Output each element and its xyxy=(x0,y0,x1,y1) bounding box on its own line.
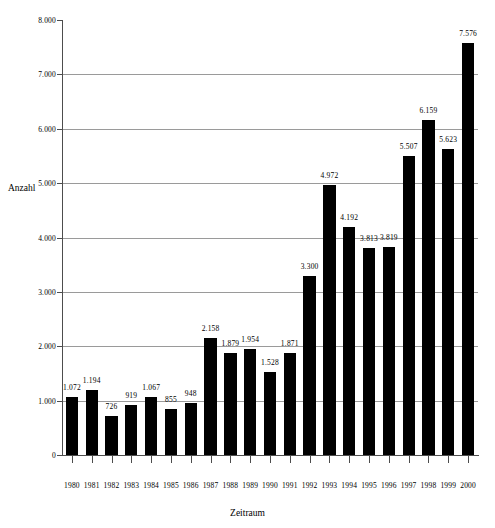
bar xyxy=(204,338,216,455)
bar xyxy=(422,120,434,455)
bar xyxy=(343,227,355,455)
bar-value-label: 1.879 xyxy=(221,339,239,348)
x-axis-tick-mark xyxy=(389,456,390,463)
bar-value-label: 726 xyxy=(106,402,118,411)
x-axis-tick-mark xyxy=(230,456,231,463)
bar-value-label: 1.871 xyxy=(281,339,299,348)
x-axis-tick-label: 1988 xyxy=(222,481,238,490)
bar xyxy=(284,353,296,455)
y-axis-tick-label: 8.000 xyxy=(38,16,56,25)
x-axis-tick-mark xyxy=(329,456,330,463)
bar-value-label: 1.067 xyxy=(142,383,160,392)
x-axis-tick-mark xyxy=(112,456,113,463)
x-axis-tick-label: 1992 xyxy=(302,481,318,490)
bar-value-label: 1.072 xyxy=(63,383,81,392)
x-axis-tick-mark xyxy=(369,456,370,463)
x-axis-tick-label: 1984 xyxy=(143,481,159,490)
bar-value-label: 855 xyxy=(165,395,177,404)
plot-area xyxy=(62,20,478,455)
bar xyxy=(264,372,276,455)
x-axis-tick-label: 1997 xyxy=(401,481,417,490)
y-axis-tick-labels: 01.0002.0003.0004.0005.0006.0007.0008.00… xyxy=(8,0,56,528)
bar-value-label: 948 xyxy=(185,389,197,398)
x-axis-tick-mark xyxy=(468,456,469,463)
y-axis-tick-mark xyxy=(57,20,62,21)
x-axis-tick-label: 1993 xyxy=(322,481,338,490)
x-axis-tick-mark xyxy=(270,456,271,463)
y-axis-tick-mark xyxy=(57,401,62,402)
gridline xyxy=(62,183,478,184)
bar xyxy=(66,397,78,455)
x-axis-tick-mark xyxy=(171,456,172,463)
bar xyxy=(403,156,415,455)
bar-value-label: 1.194 xyxy=(83,376,101,385)
bar xyxy=(224,353,236,455)
y-axis-tick-mark xyxy=(57,346,62,347)
bar-value-label: 3.819 xyxy=(380,233,398,242)
bar-value-label: 4.192 xyxy=(340,213,358,222)
gridline xyxy=(62,292,478,293)
y-axis-tick-label: 3.000 xyxy=(38,287,56,296)
x-axis-tick-label: 1982 xyxy=(104,481,120,490)
x-axis-tick-mark xyxy=(250,456,251,463)
x-axis-tick-label: 2000 xyxy=(460,481,476,490)
y-axis-tick-mark xyxy=(57,292,62,293)
x-axis-tick-label: 1991 xyxy=(282,481,298,490)
x-axis-tick-label: 1981 xyxy=(84,481,100,490)
bar xyxy=(303,276,315,455)
y-axis-tick-label: 1.000 xyxy=(38,396,56,405)
bar xyxy=(185,403,197,455)
x-axis-tick-label: 1995 xyxy=(361,481,377,490)
x-axis-tick-mark xyxy=(428,456,429,463)
bar-value-label: 1.954 xyxy=(241,335,259,344)
x-axis-tick-label: 1989 xyxy=(242,481,258,490)
x-axis-tick-label: 1999 xyxy=(440,481,456,490)
x-axis-tick-mark xyxy=(448,456,449,463)
bar xyxy=(145,397,157,455)
bar-value-label: 3.813 xyxy=(360,234,378,243)
bar-chart: 01.0002.0003.0004.0005.0006.0007.0008.00… xyxy=(0,0,495,528)
bar-value-label: 5.623 xyxy=(439,135,457,144)
bar xyxy=(323,185,335,455)
x-axis-tick-mark xyxy=(290,456,291,463)
y-axis-tick-label: 0 xyxy=(52,451,56,460)
y-axis-tick-mark xyxy=(57,455,62,456)
bar xyxy=(244,349,256,455)
y-axis-tick-mark xyxy=(57,238,62,239)
x-axis-tick-mark xyxy=(72,456,73,463)
x-axis-tick-mark xyxy=(151,456,152,463)
gridline xyxy=(62,346,478,347)
bar xyxy=(125,405,137,455)
x-axis-tick-label: 1980 xyxy=(64,481,80,490)
x-axis-tick-label: 1998 xyxy=(421,481,437,490)
bar xyxy=(462,43,474,455)
bar xyxy=(105,416,117,455)
x-axis-title: Zeitraum xyxy=(0,508,495,518)
y-axis-tick-mark xyxy=(57,74,62,75)
gridline xyxy=(62,129,478,130)
y-axis-tick-label: 2.000 xyxy=(38,342,56,351)
x-axis-tick-mark xyxy=(310,456,311,463)
bar-value-label: 7.576 xyxy=(459,29,477,38)
gridline xyxy=(62,74,478,75)
bar-value-label: 5.507 xyxy=(400,142,418,151)
bar xyxy=(383,247,395,455)
x-axis-tick-mark xyxy=(92,456,93,463)
x-axis-tick-mark xyxy=(131,456,132,463)
x-axis-tick-label: 1983 xyxy=(123,481,139,490)
bar-value-label: 4.972 xyxy=(320,171,338,180)
bar xyxy=(86,390,98,455)
x-axis-tick-mark xyxy=(211,456,212,463)
bar-value-label: 2.158 xyxy=(202,324,220,333)
y-axis-tick-label: 7.000 xyxy=(38,70,56,79)
y-axis-tick-mark xyxy=(57,183,62,184)
bar-value-label: 6.159 xyxy=(420,106,438,115)
x-axis-tick-label: 1990 xyxy=(262,481,278,490)
x-axis-tick-label: 1986 xyxy=(183,481,199,490)
x-axis-tick-mark xyxy=(409,456,410,463)
gridline xyxy=(62,238,478,239)
bar-value-label: 3.300 xyxy=(301,262,319,271)
y-axis-tick-mark xyxy=(57,129,62,130)
x-axis-tick-label: 1994 xyxy=(341,481,357,490)
y-axis-tick-label: 5.000 xyxy=(38,179,56,188)
